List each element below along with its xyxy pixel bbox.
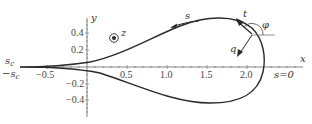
x-tick-label: −0.5 (36, 69, 54, 80)
x-axis-label: x (300, 53, 306, 64)
y-tick-label: 0.4 (71, 27, 84, 38)
x-tick-label: 1.5 (200, 69, 213, 80)
normal-label: q (230, 43, 236, 54)
angle-phi-label: φ (262, 19, 269, 30)
y-tick-label: −0.2 (66, 78, 84, 89)
x-tick-label: 2.0 (240, 69, 253, 80)
s-zero-label: s=0 (274, 69, 295, 80)
y-tick-label: 0.2 (71, 44, 84, 55)
tangent-label: t (243, 8, 248, 19)
teardrop-curve (20, 18, 264, 103)
s-c-lower-label: −sc (2, 68, 20, 81)
x-tick-label: 1.0 (160, 69, 173, 80)
s-c-upper-label: sc (5, 55, 14, 68)
arc-length-label: s (185, 10, 190, 21)
y-tick-label: −0.4 (66, 94, 84, 105)
z-axis-out-of-page-icon (110, 34, 119, 43)
diagram-canvas: y x z s t φ q s=0 sc −sc −0.5 0.5 1.0 1.… (0, 0, 312, 124)
y-axis-label: y (90, 12, 97, 23)
normal-vector (237, 35, 252, 57)
z-axis-label: z (120, 27, 127, 38)
x-tick-label: 0.5 (120, 69, 133, 80)
